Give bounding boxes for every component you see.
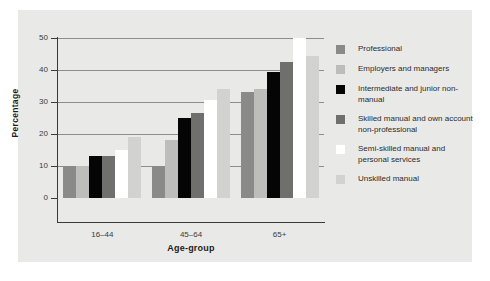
legend-item[interactable]: Intermediate and junior non-manual bbox=[336, 84, 476, 105]
bar bbox=[204, 100, 217, 198]
chart-legend: ProfessionalEmployers and managersInterm… bbox=[336, 44, 476, 194]
legend-item[interactable]: Unskilled manual bbox=[336, 174, 476, 185]
bar bbox=[128, 137, 141, 198]
y-tick-label: 10 bbox=[22, 162, 48, 170]
legend-item-label: Semi-skilled manual and personal service… bbox=[358, 144, 476, 165]
bar bbox=[267, 72, 280, 198]
legend-item-label: Employers and managers bbox=[358, 64, 476, 75]
bar bbox=[76, 166, 89, 198]
legend-item-label: Intermediate and junior non-manual bbox=[358, 84, 476, 105]
x-tick-label: 16–44 bbox=[67, 230, 137, 239]
x-axis-line bbox=[57, 222, 325, 223]
legend-swatch-icon bbox=[336, 175, 345, 184]
legend-item[interactable]: Semi-skilled manual and personal service… bbox=[336, 144, 476, 165]
bar bbox=[115, 150, 128, 198]
bar bbox=[178, 118, 191, 198]
x-tick-label: 65+ bbox=[245, 230, 315, 239]
bar bbox=[293, 38, 306, 198]
bar bbox=[63, 166, 76, 198]
y-axis-title: Percentage bbox=[10, 65, 20, 161]
bar bbox=[280, 62, 293, 198]
bar bbox=[191, 113, 204, 198]
bar bbox=[217, 89, 230, 198]
y-tick-label: 40 bbox=[22, 66, 48, 74]
bar bbox=[102, 156, 115, 198]
legend-item[interactable]: Employers and managers bbox=[336, 64, 476, 75]
bar bbox=[306, 56, 319, 198]
y-tick-label: 20 bbox=[22, 130, 48, 138]
legend-swatch-icon bbox=[336, 45, 345, 54]
bar bbox=[254, 89, 267, 198]
x-tick-label: 45–64 bbox=[156, 230, 226, 239]
legend-swatch-icon bbox=[336, 65, 345, 74]
bar-group bbox=[147, 38, 236, 198]
legend-item-label: Unskilled manual bbox=[358, 174, 476, 185]
legend-swatch-icon bbox=[336, 85, 345, 94]
legend-item-label: Skilled manual and own account non-profe… bbox=[358, 114, 476, 135]
legend-item[interactable]: Skilled manual and own account non-profe… bbox=[336, 114, 476, 135]
legend-swatch-icon bbox=[336, 115, 345, 124]
bar bbox=[165, 140, 178, 198]
legend-item[interactable]: Professional bbox=[336, 44, 476, 55]
x-axis-title: Age-group bbox=[57, 243, 325, 253]
bar-group bbox=[58, 38, 147, 198]
bar bbox=[152, 166, 165, 198]
legend-swatch-icon bbox=[336, 145, 345, 154]
bar bbox=[89, 156, 102, 198]
legend-item-label: Professional bbox=[358, 44, 476, 55]
bar-group bbox=[235, 38, 324, 198]
plot-area bbox=[58, 38, 324, 198]
bar bbox=[241, 92, 254, 198]
y-tick-label: 0 bbox=[22, 194, 48, 202]
chart-figure: Percentage 01020304050 16–4445–6465+ Age… bbox=[0, 0, 490, 281]
y-tick-label: 30 bbox=[22, 98, 48, 106]
y-tick-label: 50 bbox=[22, 34, 48, 42]
